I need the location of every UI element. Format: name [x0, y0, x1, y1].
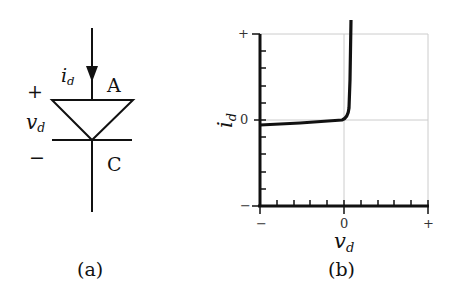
minus-sign: −: [29, 148, 45, 167]
cathode-label: C: [107, 155, 122, 174]
plus-sign: +: [27, 82, 43, 101]
x-tick-right: +: [423, 217, 434, 230]
y-tick-top: +: [238, 27, 249, 40]
diode-triangle: [52, 100, 133, 140]
current-arrow-icon: [86, 66, 98, 82]
iv-plot: [252, 20, 429, 214]
caption-b: (b): [328, 260, 355, 279]
y-tick-zero: 0: [240, 113, 248, 126]
anode-label: A: [107, 76, 121, 95]
caption-a: (a): [77, 260, 103, 279]
x-axis-label: vd: [334, 231, 354, 252]
diode-symbol: [0, 0, 449, 302]
current-label: id: [61, 66, 75, 85]
y-axis-label: id: [215, 113, 236, 128]
y-tick-bottom: −: [240, 199, 251, 212]
x-tick-left: −: [256, 217, 267, 230]
iv-curve: [260, 20, 351, 125]
voltage-label: vd: [26, 112, 45, 132]
